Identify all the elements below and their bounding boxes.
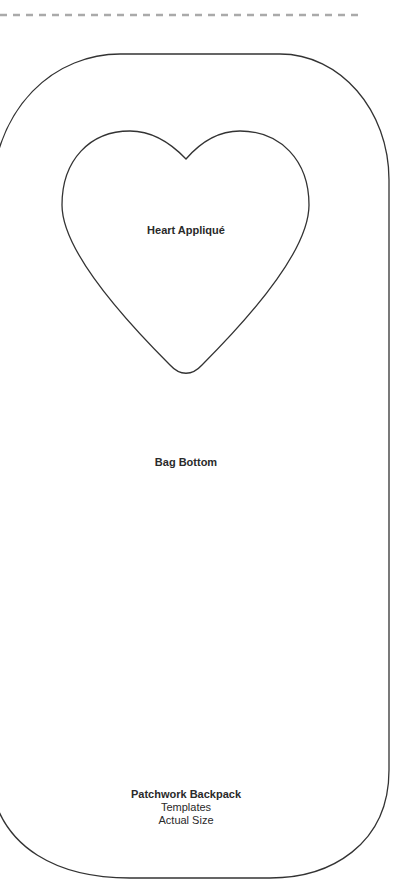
caption-templates: Templates: [0, 801, 372, 814]
caption-actual-size: Actual Size: [0, 814, 372, 827]
bag-bottom-label: Bag Bottom: [0, 456, 372, 469]
template-page: Heart Appliqué Bag Bottom Patchwork Back…: [0, 0, 410, 895]
caption-title: Patchwork Backpack: [0, 788, 372, 801]
template-artwork: [0, 0, 410, 895]
heart-applique-outline: [62, 131, 309, 373]
heart-applique-label: Heart Appliqué: [0, 224, 372, 237]
